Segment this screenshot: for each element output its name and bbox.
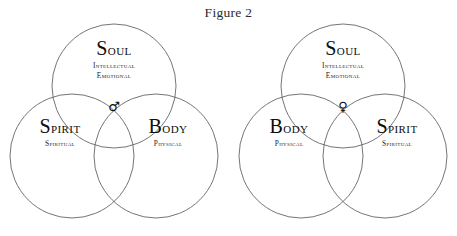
venn-left-left-title: Spirit [8,116,112,136]
venn-right-left-sub-1: Physical [237,139,341,148]
figure-title: Figure 2 [0,5,457,21]
venn-right-top-label: Soul Intellectual Emotional [235,38,451,81]
venn-left-top-sub-1: Intellectual [6,61,222,70]
venn-right-left-label: Body Physical [237,116,341,148]
venn-right-right-label: Spirit Spiritual [345,116,449,148]
venn-left-top-sub-2: Emotional [6,71,222,80]
venn-right-left-title: Body [237,116,341,136]
venn-diagram-left: Soul Intellectual Emotional Spirit Spiri… [6,20,222,224]
venn-left-right-label: Body Physical [116,116,220,148]
mars-male-symbol-icon: ♂ [6,100,222,113]
venn-right-top-sub-1: Intellectual [235,61,451,70]
venn-right-right-sub-1: Spiritual [345,139,449,148]
venn-right-right-title: Spirit [345,116,449,136]
venn-left-right-sub-1: Physical [116,139,220,148]
venn-left-left-sub-1: Spiritual [8,139,112,148]
venn-diagram-right: Soul Intellectual Emotional Body Physica… [235,20,451,224]
figure-canvas: Figure 2 Soul Intellectual Emotional Spi… [0,0,457,236]
venn-left-left-label: Spirit Spiritual [8,116,112,148]
venus-female-symbol-icon: ♀ [235,100,451,113]
venn-right-top-title: Soul [235,38,451,58]
venn-left-right-title: Body [116,116,220,136]
venn-left-top-title: Soul [6,38,222,58]
venn-right-top-sub-2: Emotional [235,71,451,80]
venn-left-top-label: Soul Intellectual Emotional [6,38,222,81]
